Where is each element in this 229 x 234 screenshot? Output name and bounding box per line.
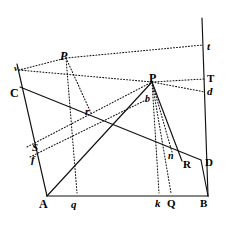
label-v: v (14, 64, 18, 73)
label-b: b (145, 94, 150, 104)
edge-left-top-to-A (17, 64, 47, 196)
label-S: S (32, 142, 38, 153)
edge-A-to-P-right (47, 82, 152, 196)
dotted-P-right-to-T (152, 79, 204, 82)
label-T: T (207, 73, 214, 84)
geometry-figure: tPTPdvCbrSfnRDAqkQB (0, 0, 229, 234)
label-Q: Q (167, 198, 176, 209)
label-P-right: P (149, 72, 156, 84)
label-A: A (39, 198, 48, 210)
label-R: R (183, 159, 191, 170)
label-k: k (155, 198, 161, 209)
label-d: d (207, 86, 213, 97)
dotted-lines-group (19, 45, 205, 193)
figure-canvas (0, 0, 229, 234)
dotted-P-upper-to-t (66, 45, 203, 58)
solid-lines-group (17, 18, 208, 196)
label-C: C (10, 87, 19, 99)
dotted-v-to-P-right (19, 70, 152, 82)
dotted-P-right-to-d (152, 82, 205, 92)
label-t: t (207, 41, 210, 52)
label-D: D (205, 157, 213, 168)
label-B: B (200, 198, 207, 209)
label-n: n (168, 151, 174, 161)
label-q: q (71, 199, 77, 210)
label-r: r (85, 106, 89, 117)
dotted-P-upper-to-v (19, 58, 66, 70)
label-f: f (31, 154, 35, 165)
dotted-S-to-P-right (27, 82, 152, 147)
label-P-upper: P (60, 50, 67, 62)
